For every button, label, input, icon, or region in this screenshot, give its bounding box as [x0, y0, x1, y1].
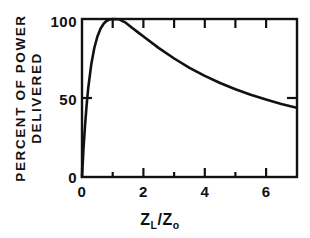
y-axis-title-line2: DELIVERED — [29, 52, 44, 144]
x-axis-title-sub-o: o — [173, 219, 180, 231]
x-tick-label-2: 2 — [139, 183, 148, 200]
x-tick-label-4: 4 — [200, 183, 209, 200]
top-axis-ticks — [113, 19, 266, 28]
y-tick-label-0: 0 — [68, 169, 77, 186]
power-delivered-line-chart: 100 50 0 0 2 4 6 PERCENT OF POWER DELIVE… — [0, 0, 310, 238]
chart-figure: 100 50 0 0 2 4 6 PERCENT OF POWER DELIVE… — [0, 0, 310, 238]
y-tick-label-50: 50 — [59, 91, 77, 108]
x-axis-title-z1: Z — [140, 211, 150, 228]
x-axis-title-z2: Z — [162, 211, 172, 228]
x-axis-title: ZL/Zo — [140, 211, 179, 231]
x-tick-label-0: 0 — [78, 183, 87, 200]
power-curve — [82, 19, 297, 177]
x-tick-label-6: 6 — [262, 183, 271, 200]
y-axis-title-line1: PERCENT OF POWER — [13, 14, 28, 181]
y-tick-label-100: 100 — [50, 13, 77, 30]
